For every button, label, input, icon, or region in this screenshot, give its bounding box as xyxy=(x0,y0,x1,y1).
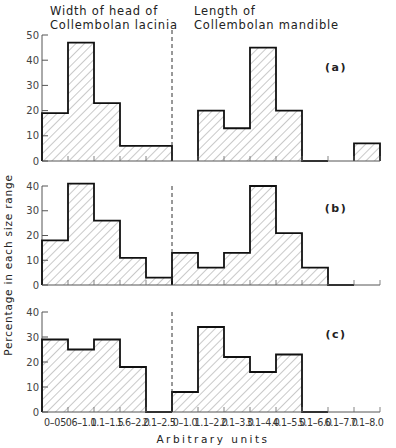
y-tick-label: 10 xyxy=(26,382,39,393)
y-tick-label: 40 xyxy=(26,181,39,192)
y-tick-label: 40 xyxy=(26,307,39,318)
histogram-bar xyxy=(120,146,146,161)
histogram-bar xyxy=(276,355,302,413)
histogram-bar xyxy=(250,48,276,161)
histogram-bar xyxy=(198,268,224,285)
y-tick-label: 10 xyxy=(26,130,39,141)
left-heading-line: Width of head of xyxy=(50,4,158,18)
histogram-bar xyxy=(224,128,250,161)
y-tick-label: 30 xyxy=(26,80,39,91)
histogram-bar xyxy=(42,113,68,161)
left-heading-line: Collembolan lacinia xyxy=(50,18,178,32)
panel-b: 010203040(b) xyxy=(26,181,380,291)
histogram-bar xyxy=(250,372,276,412)
y-tick-label: 50 xyxy=(26,30,39,41)
histogram-bar xyxy=(94,340,120,413)
y-tick-label: 20 xyxy=(26,357,39,368)
right-heading-line: Collembolan mandible xyxy=(194,18,339,32)
histogram-bar xyxy=(224,253,250,285)
x-axis-label: Arbitrary units xyxy=(156,433,269,445)
panel-label: (b) xyxy=(325,202,347,215)
histogram-bar xyxy=(146,278,172,285)
histogram-bar xyxy=(68,43,94,161)
histogram-bar xyxy=(224,357,250,412)
histogram-bar xyxy=(68,350,94,413)
y-tick-label: 40 xyxy=(26,55,39,66)
x-tick-label: 0–05 xyxy=(44,417,66,428)
histogram-bar xyxy=(94,103,120,161)
y-tick-label: 30 xyxy=(26,332,39,343)
histogram-bar xyxy=(198,327,224,412)
histogram-bar xyxy=(146,146,172,161)
histogram-bar xyxy=(276,111,302,161)
panel-label: (c) xyxy=(325,328,346,341)
x-tick-label: 2.1–2.5 xyxy=(142,417,175,428)
y-tick-label: 0 xyxy=(33,156,39,167)
histogram-bar xyxy=(276,233,302,285)
histogram-bar xyxy=(354,143,380,161)
histogram-bar xyxy=(42,340,68,413)
y-tick-label: 30 xyxy=(26,205,39,216)
y-tick-label: 0 xyxy=(33,280,39,291)
right-heading-line: Length of xyxy=(194,4,256,18)
y-axis-label: Percentage in each size range xyxy=(2,174,14,355)
histogram-bar xyxy=(172,392,198,412)
histogram-bar xyxy=(68,184,94,285)
histogram-figure: Width of head ofCollembolan laciniaLengt… xyxy=(0,0,396,448)
histogram-bar xyxy=(42,240,68,285)
histogram-bar xyxy=(198,111,224,161)
histogram-bar xyxy=(250,186,276,285)
y-tick-label: 20 xyxy=(26,230,39,241)
histogram-bar xyxy=(172,253,198,285)
histogram-bar xyxy=(120,258,146,285)
histogram-bar xyxy=(120,367,146,412)
y-tick-label: 20 xyxy=(26,105,39,116)
panel-c: 010203040(c) xyxy=(26,307,380,418)
y-tick-label: 0 xyxy=(33,407,39,418)
x-tick-label: 7.1–8.0 xyxy=(350,417,383,428)
y-tick-label: 10 xyxy=(26,255,39,266)
panel-a: 01020304050(a) xyxy=(26,30,380,167)
histogram-bar xyxy=(302,268,328,285)
panel-label: (a) xyxy=(325,61,347,74)
histogram-bar xyxy=(94,221,120,285)
